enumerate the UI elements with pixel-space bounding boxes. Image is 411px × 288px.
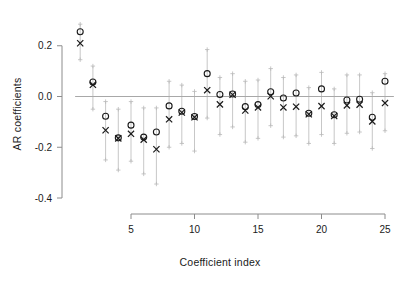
x-tick-label: 5 (128, 224, 134, 235)
x-tick-label: 20 (316, 224, 328, 235)
ar-coefficients-scatter-plot: 0.20.0-0.2-0.4510152025 (0, 0, 411, 288)
x-axis-label: Coefficient index (160, 256, 280, 268)
y-tick-label: 0.0 (38, 91, 52, 102)
y-axis-label: AR coefficients (11, 59, 23, 169)
y-tick-label: 0.2 (38, 40, 52, 51)
x-tick-label: 10 (189, 224, 201, 235)
y-tick-label: -0.4 (35, 193, 53, 204)
x-tick-label: 25 (379, 224, 391, 235)
y-tick-label: -0.2 (35, 142, 53, 153)
x-tick-label: 15 (252, 224, 264, 235)
chart-figure: 0.20.0-0.2-0.4510152025 AR coefficients … (0, 0, 411, 288)
